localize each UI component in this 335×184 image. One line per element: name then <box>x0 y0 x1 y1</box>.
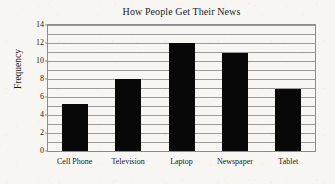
y-tick-label: 14 <box>36 21 44 29</box>
x-tick-label: Cell Phone <box>57 158 92 166</box>
x-tick-label: Tablet <box>278 158 298 166</box>
bar-chart: How People Get Their News Frequency 0246… <box>0 0 335 184</box>
y-tick-label: 0 <box>40 147 44 155</box>
x-tick-label: Newspaper <box>217 158 253 166</box>
chart-title: How People Get Their News <box>47 6 316 17</box>
y-axis-title: Frequency <box>13 29 23 109</box>
y-tick-label: 12 <box>36 39 44 47</box>
y-tick-label: 2 <box>40 129 44 137</box>
y-tick-label: 10 <box>36 57 44 65</box>
bar-tablet <box>275 89 301 151</box>
plot-area: 02468101214Cell PhoneTelevisionLaptopNew… <box>47 24 316 152</box>
bar-cell-phone <box>62 104 88 151</box>
gridline <box>48 34 315 35</box>
y-tick-label: 4 <box>40 111 44 119</box>
gridline <box>48 25 315 26</box>
x-tick-label: Television <box>111 158 144 166</box>
bar-laptop <box>169 43 195 151</box>
y-tick-mark <box>45 151 48 152</box>
bar-newspaper <box>222 53 248 151</box>
bar-television <box>115 79 141 151</box>
y-tick-label: 6 <box>40 93 44 101</box>
y-tick-label: 8 <box>40 75 44 83</box>
x-tick-label: Laptop <box>170 158 193 166</box>
